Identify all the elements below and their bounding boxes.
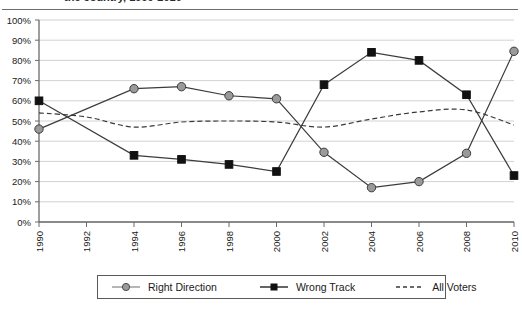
data-point-marker (320, 148, 328, 156)
x-axis-tick-label: 2006 (414, 231, 425, 252)
y-axis-tick-label: 50% (12, 116, 32, 127)
data-point-marker (35, 125, 43, 133)
series-wrong-track (35, 49, 518, 180)
x-axis-tick-label: 2010 (509, 231, 520, 252)
chart-area: 0%10%20%30%40%50%60%70%80%90%100%1990199… (0, 12, 522, 267)
x-axis-tick-label: 2000 (271, 231, 282, 252)
x-axis-tick-label: 2004 (366, 231, 377, 252)
x-axis-tick-label: 1998 (224, 231, 235, 252)
y-axis-tick-label: 90% (12, 35, 32, 46)
line-chart-plot: 0%10%20%30%40%50%60%70%80%90%100%1990199… (0, 12, 522, 267)
data-point-marker (510, 172, 518, 180)
x-axis-tick-label: 2002 (319, 231, 330, 252)
data-point-marker (130, 84, 138, 92)
x-axis-tick-label: 1992 (81, 231, 92, 252)
series-all-voters (39, 109, 514, 127)
legend-key-square-icon (259, 281, 289, 293)
legend-item-all-voters: All Voters (395, 276, 476, 298)
x-axis-tick-label: 1990 (34, 231, 45, 252)
y-axis-tick-label: 40% (12, 136, 32, 147)
legend-item-right-direction: Right Direction (111, 276, 217, 298)
legend-label-all-voters: All Voters (432, 281, 476, 293)
series-line (39, 109, 514, 127)
chart-title-strip: the country, 1990-2010 (0, 0, 522, 8)
data-point-marker (320, 81, 328, 89)
data-point-marker (177, 82, 185, 90)
page-title: the country, 1990-2010 (64, 0, 182, 3)
y-axis-tick-label: 60% (12, 95, 32, 106)
data-point-marker (35, 97, 43, 105)
y-axis-tick-label: 70% (12, 75, 32, 86)
data-point-marker (368, 49, 376, 57)
y-axis-tick-label: 20% (12, 176, 32, 187)
header-divider (2, 9, 518, 10)
data-point-marker (178, 156, 186, 164)
y-axis-tick-label: 30% (12, 156, 32, 167)
legend-key-dashed-icon (395, 281, 425, 293)
data-point-marker (130, 152, 138, 160)
y-axis-tick-label: 0% (17, 217, 31, 228)
data-point-marker (463, 91, 471, 99)
data-point-marker (367, 183, 375, 191)
legend-key-circle-icon (111, 281, 141, 293)
data-point-marker (415, 177, 423, 185)
data-point-marker (510, 47, 518, 55)
data-point-marker (225, 92, 233, 100)
data-point-marker (272, 95, 280, 103)
data-point-marker (415, 57, 423, 65)
x-axis-tick-label: 2008 (461, 231, 472, 252)
legend-item-wrong-track: Wrong Track (259, 276, 355, 298)
data-point-marker (225, 161, 233, 169)
data-point-marker (462, 149, 470, 157)
x-axis-tick-label: 1994 (129, 231, 140, 252)
legend-label-wrong-track: Wrong Track (296, 281, 355, 293)
y-axis-tick-label: 10% (12, 196, 32, 207)
chart-legend: Right Direction Wrong Track All Voters (97, 275, 446, 299)
y-axis-tick-label: 80% (12, 55, 32, 66)
legend-label-right-direction: Right Direction (148, 281, 217, 293)
series-line (39, 52, 514, 175)
x-axis-tick-label: 1996 (176, 231, 187, 252)
data-point-marker (273, 168, 281, 176)
y-axis-tick-label: 100% (7, 15, 32, 26)
